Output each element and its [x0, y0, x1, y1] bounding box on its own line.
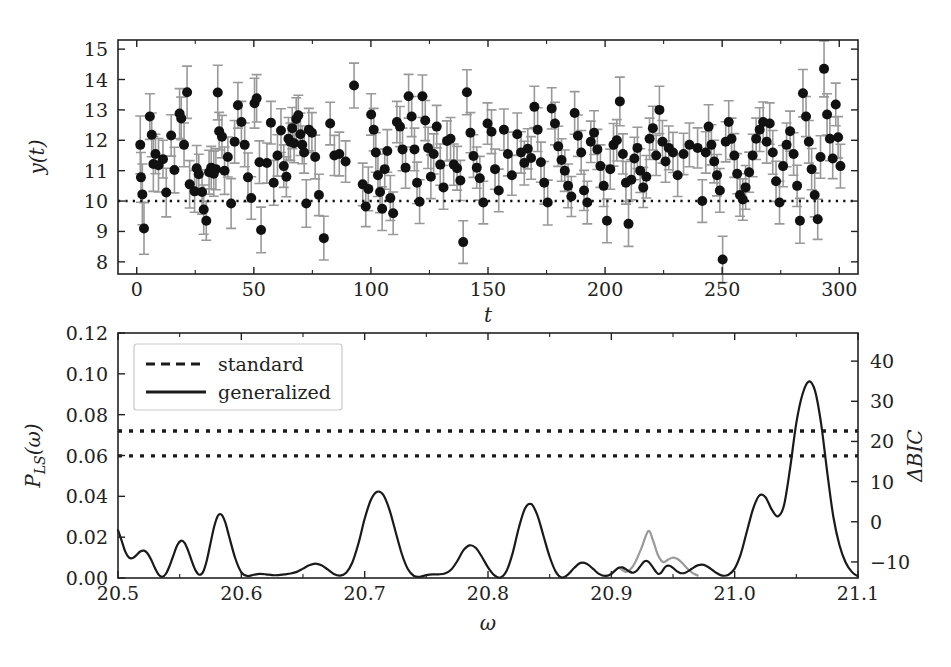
data-point — [269, 178, 279, 188]
data-point — [490, 164, 500, 174]
data-point — [778, 161, 788, 171]
data-point — [570, 108, 580, 118]
data-point — [589, 128, 599, 138]
y-tick-label: 11 — [84, 160, 108, 182]
data-point — [276, 126, 286, 136]
data-point — [455, 175, 465, 185]
data-point — [158, 154, 168, 164]
y-tick-label-right: −10 — [870, 551, 910, 573]
data-point — [718, 254, 728, 264]
data-point — [341, 157, 351, 167]
data-point — [668, 147, 678, 157]
data-point — [182, 87, 192, 97]
data-point — [673, 170, 683, 180]
data-point — [409, 144, 419, 154]
y-tick-label-right: 30 — [870, 390, 894, 412]
y-tick-label: 15 — [84, 38, 108, 60]
y-tick-label: 12 — [84, 129, 108, 151]
bottom-panel-right-axis-label: ΔBIC — [903, 429, 927, 482]
data-point — [651, 150, 661, 160]
data-point — [586, 137, 596, 147]
y-tick-label-right: 40 — [870, 350, 894, 372]
figure-canvas: 050100150200250300 89101112131415 y(t) t… — [0, 0, 951, 667]
y-tick-label-right: 10 — [870, 471, 894, 493]
data-point — [573, 131, 583, 141]
data-point — [213, 88, 223, 98]
data-point — [256, 225, 266, 235]
data-point — [712, 170, 722, 180]
data-point — [768, 147, 778, 157]
data-point — [751, 134, 761, 144]
data-point — [813, 214, 823, 224]
data-point — [632, 143, 642, 153]
data-point — [452, 163, 462, 173]
data-point — [679, 149, 689, 159]
y-tick-label: 0.06 — [66, 445, 108, 467]
data-point — [553, 141, 563, 151]
data-point — [363, 184, 373, 194]
data-point — [325, 119, 335, 129]
data-point — [724, 117, 734, 127]
data-point — [487, 127, 497, 137]
data-point — [295, 129, 305, 139]
top-panel-x-axis-label: t — [484, 303, 493, 327]
data-point — [526, 153, 536, 163]
y-tick-label: 0.08 — [66, 404, 108, 426]
data-point — [654, 105, 664, 115]
data-point — [223, 152, 233, 162]
data-point — [744, 167, 754, 177]
y-tick-label: 13 — [84, 99, 108, 121]
data-point — [557, 155, 567, 165]
data-point — [775, 198, 785, 208]
data-point — [458, 237, 468, 247]
x-tick-label: 250 — [704, 278, 740, 300]
data-point — [626, 175, 636, 185]
data-point — [789, 149, 799, 159]
data-point — [543, 198, 553, 208]
data-point — [145, 112, 155, 122]
data-point — [615, 96, 625, 106]
data-point — [648, 123, 658, 133]
x-tick-label: 20.7 — [344, 582, 386, 604]
data-point — [785, 126, 795, 136]
data-point — [435, 160, 445, 170]
data-point — [446, 134, 456, 144]
data-point — [366, 109, 376, 119]
y-tick-label: 10 — [84, 190, 108, 212]
top-panel-y-axis-label: y(t) — [25, 140, 49, 176]
data-point — [494, 185, 504, 195]
data-point — [592, 144, 602, 154]
data-point — [741, 182, 751, 192]
data-point — [612, 135, 622, 145]
data-point — [135, 140, 145, 150]
data-point — [287, 123, 297, 133]
bottom-panel-x-axis-label: ω — [480, 611, 496, 635]
y-tick-label: 0.02 — [66, 526, 108, 548]
data-point — [281, 172, 291, 182]
data-point — [194, 169, 204, 179]
x-tick-label: 300 — [821, 278, 857, 300]
data-point — [266, 118, 276, 128]
data-point — [706, 140, 716, 150]
data-point — [432, 122, 442, 132]
data-point — [371, 147, 381, 157]
data-point — [618, 149, 628, 159]
x-tick-label: 100 — [353, 278, 389, 300]
data-point — [819, 64, 829, 74]
data-point — [762, 137, 772, 147]
data-point — [810, 190, 820, 200]
data-point — [602, 216, 612, 226]
data-point — [404, 91, 414, 101]
data-point — [550, 119, 560, 129]
data-point — [645, 134, 655, 144]
data-point — [507, 170, 517, 180]
y-tick-label: 0.00 — [66, 567, 108, 589]
data-point — [361, 202, 371, 212]
data-point — [641, 172, 651, 182]
x-tick-label: 20.9 — [590, 582, 632, 604]
data-point — [835, 161, 845, 171]
legend-label-standard: standard — [218, 353, 304, 375]
data-point — [536, 157, 546, 167]
data-point — [595, 161, 605, 171]
data-point — [262, 158, 272, 168]
